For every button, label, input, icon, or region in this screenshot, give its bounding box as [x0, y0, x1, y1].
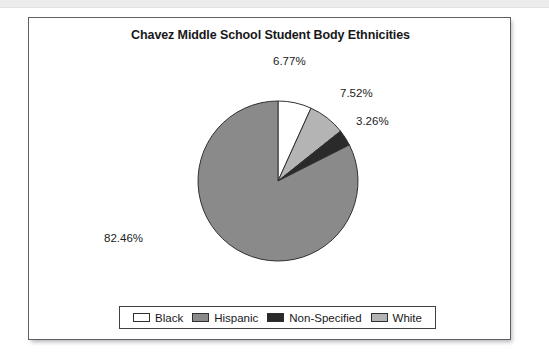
- slice-label-non-specified: 3.26%: [356, 115, 389, 127]
- legend-swatch-hispanic: [192, 313, 209, 322]
- legend-label-white: White: [393, 312, 422, 324]
- chart-figure-frame: Chavez Middle School Student Body Ethnic…: [28, 17, 511, 340]
- page-top-band: [0, 0, 549, 8]
- legend-swatch-non-specified: [267, 313, 284, 322]
- legend-label-black: Black: [155, 312, 183, 324]
- legend-label-hispanic: Hispanic: [214, 312, 258, 324]
- chart-legend: BlackHispanicNon-SpecifiedWhite: [119, 306, 436, 329]
- legend-item-hispanic[interactable]: Hispanic: [192, 312, 258, 324]
- slice-label-hispanic: 82.46%: [104, 232, 143, 244]
- legend-swatch-white: [371, 313, 388, 322]
- slice-label-black: 6.77%: [273, 55, 306, 67]
- pie-chart-plot-area: 6.77% 7.52% 3.26% 82.46%: [29, 18, 512, 341]
- pie-slice-group: [198, 101, 358, 261]
- legend-swatch-black: [133, 313, 150, 322]
- slice-label-white: 7.52%: [340, 87, 373, 99]
- legend-label-non-specified: Non-Specified: [289, 312, 361, 324]
- pie-chart-svg: [197, 100, 359, 262]
- legend-item-non-specified[interactable]: Non-Specified: [267, 312, 361, 324]
- legend-item-black[interactable]: Black: [133, 312, 183, 324]
- legend-item-white[interactable]: White: [371, 312, 422, 324]
